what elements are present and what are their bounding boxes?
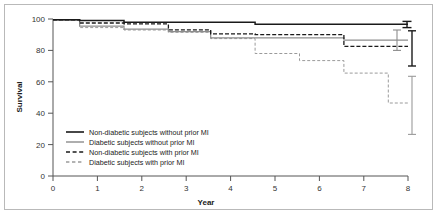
y-tick-label-100: 100 [32,15,46,24]
y-tick-label-80: 80 [36,46,45,55]
curve-diabetic-with-mi [53,20,408,103]
legend-label-nondiabetic-with-mi: Non-diabetic subjects with prior MI [89,148,199,157]
error-bar-nondiabetic-with-mi [408,31,416,66]
error-bars [393,21,416,134]
x-tick-label-6: 6 [317,184,322,193]
y-tick-label-40: 40 [36,109,45,118]
y-axis-title: Survival [15,81,24,112]
chart-legend: Non-diabetic subjects without prior MI D… [66,128,209,167]
y-axis-ticks: 100 80 60 40 20 0 [32,15,53,181]
x-tick-label-2: 2 [140,184,145,193]
x-tick-label-4: 4 [228,184,233,193]
x-tick-label-5: 5 [273,184,278,193]
x-tick-label-3: 3 [184,184,189,193]
y-tick-label-60: 60 [36,78,45,87]
x-axis-title: Year [198,198,215,207]
legend-entry-nondiabetic-with-mi: Non-diabetic subjects with prior MI [66,148,199,157]
x-axis-ticks: 0 1 2 3 4 5 6 7 8 [51,176,411,193]
x-tick-label-1: 1 [95,184,100,193]
error-bar-diabetic-with-mi [408,76,416,134]
survival-curves [53,20,408,103]
y-tick-label-0: 0 [41,172,46,181]
survival-chart: 100 80 60 40 20 0 0 1 2 3 4 5 6 7 8 [0,0,439,216]
legend-entry-diabetic-without-mi: Diabetic subjects without prior MI [66,138,194,147]
legend-label-nondiabetic-without-mi: Non-diabetic subjects without prior MI [89,128,209,137]
legend-entry-nondiabetic-without-mi: Non-diabetic subjects without prior MI [66,128,209,137]
y-tick-label-20: 20 [36,141,45,150]
legend-label-diabetic-without-mi: Diabetic subjects without prior MI [89,138,194,147]
chart-svg: 100 80 60 40 20 0 0 1 2 3 4 5 6 7 8 [0,0,439,216]
x-tick-label-0: 0 [51,184,56,193]
x-tick-label-8: 8 [406,184,411,193]
x-tick-label-7: 7 [362,184,367,193]
legend-label-diabetic-with-mi: Diabetic subjects with prior MI [89,158,184,167]
legend-entry-diabetic-with-mi: Diabetic subjects with prior MI [66,158,184,167]
